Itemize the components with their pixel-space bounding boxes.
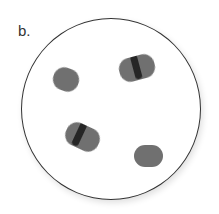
cell-single: [134, 145, 163, 167]
panel-label: b.: [18, 22, 31, 39]
division-band: [71, 122, 87, 147]
division-band: [130, 55, 143, 80]
petri-dish: [21, 18, 201, 200]
